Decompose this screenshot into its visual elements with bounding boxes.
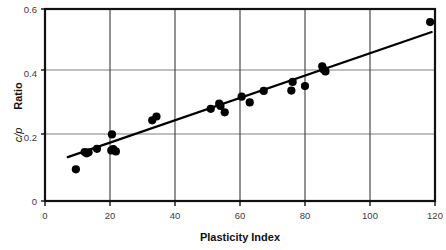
x-tick-label: 20	[105, 210, 116, 221]
data-point	[287, 87, 295, 95]
y-tick-label-group: 00.20.40.6	[24, 4, 37, 207]
data-point	[426, 18, 434, 26]
x-tick-label: 40	[170, 210, 181, 221]
x-axis-title: Plasticity Index	[200, 231, 281, 243]
data-point	[112, 147, 120, 155]
x-tick-label-group: 020406080100120	[42, 210, 443, 221]
x-tick-label: 0	[42, 210, 47, 221]
data-point	[238, 93, 246, 101]
y-axis-title: c/p Ratio	[12, 82, 24, 142]
x-tick-label: 80	[300, 210, 311, 221]
data-point	[108, 130, 116, 138]
data-point	[72, 165, 80, 173]
x-tick-label: 60	[235, 210, 246, 221]
data-point	[301, 82, 309, 90]
y-tick-label: 0.6	[24, 4, 37, 15]
data-point	[260, 87, 268, 95]
data-point	[321, 67, 329, 75]
data-point	[152, 112, 160, 120]
data-point	[221, 108, 229, 116]
y-axis-title-italic: c/p	[12, 128, 24, 143]
scatter-plot-svg: 00.20.40.6 020406080100120 c/p Ratio Pla…	[0, 0, 446, 250]
data-point	[207, 105, 215, 113]
y-tick-label: 0.4	[24, 68, 37, 79]
y-tick-label: 0	[32, 196, 37, 207]
data-point	[289, 78, 297, 86]
x-tick-label: 120	[427, 210, 443, 221]
chart-figure: 00.20.40.6 020406080100120 c/p Ratio Pla…	[0, 0, 446, 250]
data-point	[246, 98, 254, 106]
y-axis-title-plain: Ratio	[12, 82, 24, 110]
data-point	[93, 145, 101, 153]
x-tick-label: 100	[362, 210, 378, 221]
y-tick-label: 0.2	[24, 132, 37, 143]
data-point	[84, 148, 92, 156]
